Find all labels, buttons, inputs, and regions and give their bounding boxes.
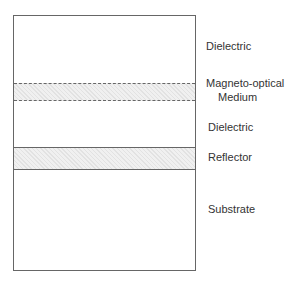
reflector-layer xyxy=(14,147,195,170)
label-reflector: Reflector xyxy=(208,151,252,164)
label-medium: Medium xyxy=(218,91,257,104)
magneto-optical-layer xyxy=(14,83,195,101)
label-substrate: Substrate xyxy=(208,203,255,216)
layer-stack xyxy=(13,15,196,271)
label-magneto-optical: Magneto-optical xyxy=(206,77,284,90)
label-dielectric-bottom: Dielectric xyxy=(208,121,253,134)
label-dielectric-top: Dielectric xyxy=(206,40,251,53)
